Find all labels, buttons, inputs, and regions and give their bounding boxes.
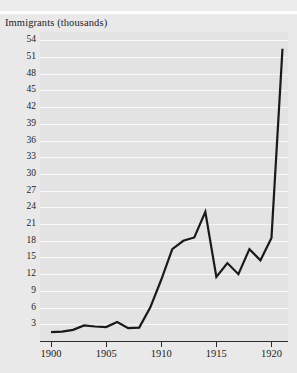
x-tick-label-1920: 1920 <box>249 349 293 360</box>
y-tick-label-21: 21 <box>8 219 36 229</box>
y-tick-label-12: 12 <box>8 269 36 279</box>
x-tick-mark-1915 <box>216 341 217 347</box>
x-tick-label-1910: 1910 <box>139 349 183 360</box>
y-tick-label-24: 24 <box>8 202 36 212</box>
immigrants-line-chart-figure: Immigrants (thousands) 36912151821242730… <box>0 0 297 373</box>
y-tick-label-36: 36 <box>8 136 36 146</box>
series-polyline <box>51 49 282 332</box>
x-tick-mark-1920 <box>271 341 272 347</box>
x-tick-label-1900: 1900 <box>29 349 73 360</box>
plot-area <box>40 32 288 341</box>
y-tick-label-9: 9 <box>8 286 36 296</box>
x-tick-mark-1910 <box>161 341 162 347</box>
x-tick-mark-1900 <box>51 341 52 347</box>
series-line-immigrants <box>40 32 288 341</box>
x-tick-label-1915: 1915 <box>194 349 238 360</box>
page-top-band <box>0 0 297 11</box>
x-axis-baseline <box>40 341 288 342</box>
y-tick-label-39: 39 <box>8 119 36 129</box>
y-tick-label-3: 3 <box>8 319 36 329</box>
y-tick-label-27: 27 <box>8 186 36 196</box>
y-tick-label-42: 42 <box>8 102 36 112</box>
y-tick-label-15: 15 <box>8 252 36 262</box>
chart-title: Immigrants (thousands) <box>5 17 107 28</box>
y-tick-label-6: 6 <box>8 303 36 313</box>
y-tick-label-30: 30 <box>8 169 36 179</box>
y-tick-label-54: 54 <box>8 35 36 45</box>
y-tick-label-33: 33 <box>8 152 36 162</box>
x-tick-label-1905: 1905 <box>84 349 128 360</box>
y-tick-label-48: 48 <box>8 69 36 79</box>
y-tick-label-18: 18 <box>8 236 36 246</box>
x-tick-mark-1905 <box>106 341 107 347</box>
y-tick-label-45: 45 <box>8 85 36 95</box>
y-tick-label-51: 51 <box>8 52 36 62</box>
